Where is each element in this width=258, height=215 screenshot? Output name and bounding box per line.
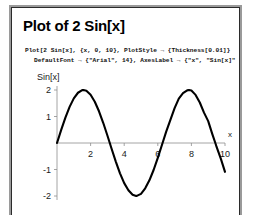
y-tick-label: 1 — [46, 112, 51, 122]
y-tick-label: 2 — [46, 85, 51, 95]
x-tick-label: 4 — [122, 149, 127, 159]
x-tick-label: 8 — [189, 149, 194, 159]
screenshot-root: Plot of 2 Sin[x] Plot[2 Sin[x], {x, 0, 1… — [0, 0, 258, 215]
code-cell[interactable]: Plot[2 Sin[x], {x, 0, 10}, PlotStyle → {… — [25, 46, 239, 66]
y-tick-label: -1 — [43, 165, 51, 175]
sine-plot: 246810 21-1-2 Sin[x] x — [25, 68, 237, 203]
y-axis-ticks: 21-1-2 — [43, 85, 57, 201]
notebook-page: Plot of 2 Sin[x] Plot[2 Sin[x], {x, 0, 1… — [11, 7, 240, 215]
page-title: Plot of 2 Sin[x] — [23, 17, 125, 34]
plot-graphic-cell[interactable]: 246810 21-1-2 Sin[x] x — [25, 68, 237, 203]
y-tick-label: -2 — [43, 191, 51, 201]
x-axis-label: x — [228, 130, 232, 139]
code-line: DefaultFont → {"Arial", 14}, AxesLabel →… — [25, 56, 239, 66]
y-axis-label: Sin[x] — [37, 72, 60, 82]
x-tick-label: 2 — [88, 149, 93, 159]
code-line: Plot[2 Sin[x], {x, 0, 10}, PlotStyle → {… — [25, 46, 239, 56]
